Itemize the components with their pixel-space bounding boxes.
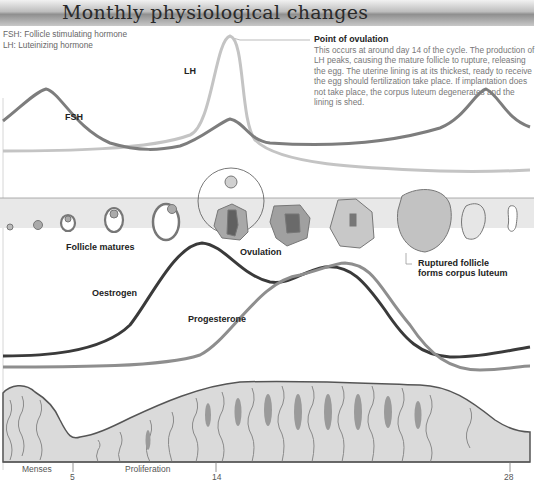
label-corpus-luteum: forms corpus luteum bbox=[418, 268, 508, 278]
label-progesterone: Progesterone bbox=[188, 314, 246, 324]
axis-day-14: 14 bbox=[212, 472, 221, 480]
label-oestrogen: Oestrogen bbox=[92, 288, 137, 298]
lh-curve bbox=[3, 36, 530, 171]
axis-day-28: 28 bbox=[504, 472, 513, 480]
label-proliferation: Proliferation bbox=[125, 464, 170, 474]
axis-day-5: 5 bbox=[70, 472, 75, 480]
progesterone-curve bbox=[3, 263, 530, 370]
ovary-band bbox=[0, 198, 534, 228]
label-ruptured-follicle: Ruptured follicle bbox=[418, 258, 489, 268]
label-lh: LH bbox=[184, 66, 196, 76]
label-menses: Menses bbox=[22, 464, 52, 474]
label-ovulation: Ovulation bbox=[240, 247, 282, 257]
label-fsh: FSH bbox=[65, 112, 83, 122]
note-leader-line bbox=[233, 38, 310, 40]
label-follicle-matures: Follicle matures bbox=[66, 242, 135, 252]
